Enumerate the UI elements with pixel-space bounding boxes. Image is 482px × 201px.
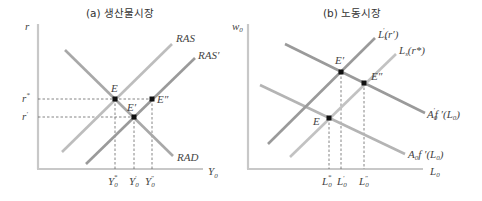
panel-a-y-axis-label: r <box>25 20 30 32</box>
tick-l-star: L0* <box>321 173 332 189</box>
point-e <box>113 97 118 102</box>
point-e-dprime-label: E″ <box>370 70 383 82</box>
tick-l-prime: L0′ <box>336 174 347 189</box>
diagram-canvas: (a) 생산물시장 r Y0 RAS RAS′ RAD r* r′ Y0* Y0… <box>0 0 482 201</box>
panel-a-title: (a) 생산물시장 <box>86 7 154 19</box>
tick-y-star: Y0* <box>108 173 118 189</box>
point-e-label: E <box>312 115 320 127</box>
tick-r-prime: r′ <box>22 110 28 122</box>
curve-labor-demand-label: A0f ′(L0) <box>407 148 444 162</box>
curve-labor-supply-shifted-label: Ls′(r′) <box>377 26 399 42</box>
curve-rad-label: RAD <box>176 151 198 163</box>
tick-r-star: r* <box>22 91 30 104</box>
panel-a-x-axis-label: Y0 <box>208 165 218 180</box>
tick-l-dprime: L0″ <box>358 174 369 189</box>
panel-b-x-axis-label: L0 <box>429 165 440 179</box>
curve-ras-prime-label: RAS′ <box>197 49 220 61</box>
point-e-prime-label: E′ <box>334 54 345 66</box>
point-e-label: E <box>110 82 118 94</box>
curve-ras-label: RAS <box>175 32 195 44</box>
curve-labor-demand <box>260 85 405 154</box>
point-e-prime <box>339 70 344 75</box>
panel-b-title: (b) 노동시장 <box>323 7 381 19</box>
point-e-dprime <box>362 81 367 86</box>
curve-labor-supply-label: Ls(r*) <box>398 44 425 58</box>
panel-labor-market: (b) 노동시장 w0 L0 Ls′(r′) Ls(r*) A0′f ′(L0)… <box>232 7 460 189</box>
tick-y-dprime: Y0″ <box>145 174 155 189</box>
point-e <box>327 116 332 121</box>
tick-y-prime: Y0′ <box>129 174 139 189</box>
panel-b-y-axis-label: w0 <box>232 20 243 34</box>
point-e-dprime <box>150 97 155 102</box>
point-e-dprime-label: E″ <box>156 93 169 105</box>
curve-labor-demand-shifted-label: A0′f ′(L0) <box>426 106 460 122</box>
point-e-prime <box>132 115 137 120</box>
panel-output-market: (a) 생산물시장 r Y0 RAS RAS′ RAD r* r′ Y0* Y0… <box>22 7 220 189</box>
point-e-prime-label: E′ <box>126 101 137 113</box>
